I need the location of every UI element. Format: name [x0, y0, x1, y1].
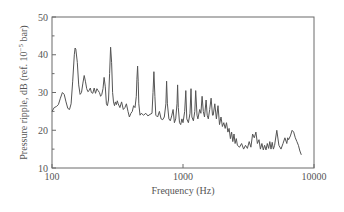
y-axis-label-tail: bar)	[18, 25, 30, 44]
y-axis-label: Pressure ripple, dB (ref. 10−5 bar)	[17, 25, 30, 159]
y-axis-ticks: 1020304050	[38, 12, 56, 174]
x-tick-label: 1000	[173, 171, 193, 182]
y-tick-label: 40	[38, 49, 48, 60]
y-axis-label-main: Pressure ripple, dB (ref. 10	[18, 51, 30, 159]
x-tick-label: 10000	[302, 171, 327, 182]
x-tick-label: 100	[45, 171, 60, 182]
x-axis-label: Frequency (Hz)	[151, 185, 214, 197]
y-tick-label: 30	[38, 87, 48, 98]
frequency-spectrum-chart: 1020304050 100100010000 Frequency (Hz) P…	[0, 0, 344, 212]
x-axis-ticks: 100100010000	[45, 164, 327, 182]
y-tick-label: 20	[38, 125, 48, 136]
y-tick-label: 50	[38, 12, 48, 23]
spectrum-line	[52, 47, 301, 155]
